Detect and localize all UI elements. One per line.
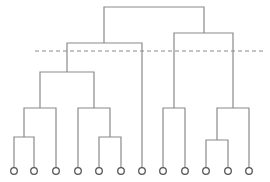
dendrogram-link — [40, 72, 94, 108]
leaf-node — [203, 168, 210, 175]
dendrogram-link — [78, 108, 110, 171]
leaf-node — [160, 168, 167, 175]
leaf-node — [11, 168, 18, 175]
dendrogram-link — [174, 33, 233, 108]
dendrogram-link — [206, 140, 228, 171]
leaf-node — [31, 168, 38, 175]
leaf-node — [139, 168, 146, 175]
leaf-node — [182, 168, 189, 175]
dendrogram-link — [14, 137, 34, 171]
leaf-node — [246, 168, 253, 175]
leaf-node — [225, 168, 232, 175]
leaf-node — [53, 168, 60, 175]
dendrogram-link — [104, 7, 204, 43]
leaf-node — [118, 168, 125, 175]
dendrogram-link — [24, 108, 56, 171]
dendrogram-link — [163, 108, 185, 171]
dendrogram — [0, 0, 270, 182]
dendrogram-link — [99, 137, 121, 171]
leaf-node — [96, 168, 103, 175]
leaf-node — [75, 168, 82, 175]
